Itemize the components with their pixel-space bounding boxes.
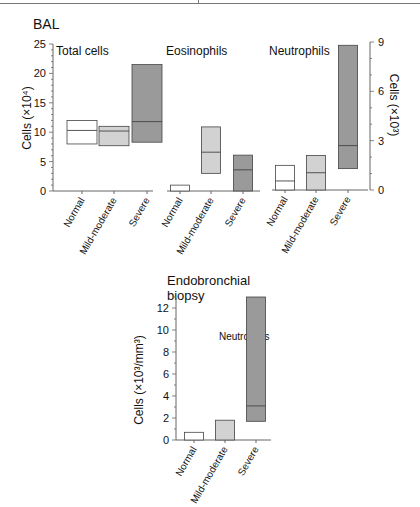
- range-bar-severe: [132, 65, 162, 143]
- range-bar-normal: [67, 120, 97, 144]
- category-label-severe: Severe: [327, 194, 353, 227]
- y-axis-label-right: Cells (×10³): [387, 74, 401, 136]
- range-bar-normal: [185, 432, 204, 440]
- category-label-normal: Normal: [264, 195, 290, 228]
- range-bar-mild-moderate: [99, 126, 129, 145]
- category-label-normal: Normal: [61, 196, 87, 229]
- range-bar-normal: [276, 165, 295, 190]
- y-tick-label: 25: [34, 38, 46, 50]
- y-tick-label: 15: [34, 97, 46, 109]
- panel-title-neutrophils: Neutrophils: [269, 44, 330, 58]
- range-bar-severe: [247, 297, 266, 421]
- plot-layer: NormalMild-moderateSevereNormalMild-mode…: [34, 36, 384, 505]
- y-tick-label: 10: [34, 126, 46, 138]
- y-axis-label-left: Cells (×10⁴): [20, 86, 34, 150]
- range-bar-normal: [171, 185, 190, 191]
- range-bar-mild-moderate: [202, 127, 221, 173]
- y-tick-label-biopsy: 12: [157, 302, 169, 314]
- y-tick-label-biopsy: 0: [163, 434, 169, 446]
- panel-title-total-cells: Total cells: [56, 44, 109, 58]
- biopsy-title-line2: biopsy: [167, 288, 205, 303]
- figure: BAL Endobronchial biopsy Total cells Eos…: [0, 0, 420, 507]
- y-tick-label-biopsy: 6: [163, 368, 169, 380]
- y-tick-label: 5: [40, 156, 46, 168]
- y-tick-label-biopsy: 8: [163, 346, 169, 358]
- biopsy-title-line1: Endobronchial: [167, 273, 250, 288]
- y-tick-label-right: 0: [378, 184, 384, 196]
- category-label-normal: Normal: [173, 445, 199, 478]
- category-label-normal: Normal: [159, 196, 185, 229]
- bal-title: BAL: [33, 16, 60, 32]
- category-label-severe: Severe: [235, 444, 261, 477]
- panel-title-eosinophils: Eosinophils: [166, 44, 227, 58]
- y-axis-label-biopsy: Cells (×10³/mm³): [132, 335, 146, 425]
- y-tick-label-right: 3: [378, 135, 384, 147]
- range-bar-mild-moderate: [216, 420, 235, 440]
- range-bar-severe: [234, 155, 253, 191]
- range-bar-severe: [339, 45, 358, 168]
- y-tick-label-biopsy: 10: [157, 324, 169, 336]
- y-tick-label-biopsy: 2: [163, 412, 169, 424]
- y-tick-label-biopsy: 4: [163, 390, 169, 402]
- y-tick-label: 20: [34, 67, 46, 79]
- y-tick-label: 0: [40, 185, 46, 197]
- category-label-severe: Severe: [126, 195, 152, 228]
- y-tick-label-right: 9: [378, 36, 384, 48]
- category-label-severe: Severe: [222, 195, 248, 228]
- y-tick-label-right: 6: [378, 85, 384, 97]
